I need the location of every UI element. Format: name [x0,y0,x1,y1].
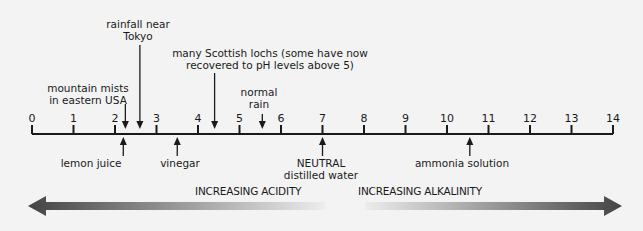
annotation-text: mountain mists [47,82,129,94]
annotation-text: lemon juice [61,157,122,169]
increasing-acidity-label: INCREASING ACIDITY [195,185,302,197]
annotation-text: Tokyo [122,30,152,42]
tick-label: 5 [236,112,243,125]
ph-scale-diagram: 01234567891011121314 mountain mistsin ea… [0,0,643,231]
tick-label: 2 [112,112,119,125]
annotation-ammonia: ammonia solution [415,137,509,169]
down-arrow-icon [136,121,143,129]
annotation-text: normal [241,86,278,98]
tick-label: 0 [29,112,36,125]
tick-label: 6 [278,112,285,125]
annotation-lemon-juice: lemon juice [61,137,127,169]
tick-label: 14 [606,112,620,125]
annotation-text: NEUTRAL [297,157,346,169]
down-arrow-icon [211,121,218,129]
tick-label: 8 [361,112,368,125]
tick-label: 7 [319,112,326,125]
increasing-alkalinity-label: INCREASING ALKALINITY [358,185,483,197]
annotation-text: rainfall near [106,18,170,30]
tick-label: 11 [482,112,496,125]
tick-label: 3 [153,112,160,125]
annotation-text: vinegar [160,157,200,169]
direction-arrow: INCREASING ACIDITY INCREASING ALKALINITY [28,185,622,216]
axis-ticks [32,125,613,134]
annotation-neutral: NEUTRALdistilled water [284,137,359,181]
tick-label: 10 [440,112,454,125]
tick-label: 13 [565,112,579,125]
tick-label: 12 [523,112,537,125]
acidity-arrow-icon [28,196,325,216]
alkalinity-arrow-icon [365,196,622,216]
annotation-text: rain [249,98,269,110]
annotation-vinegar: vinegar [160,137,200,169]
annotation-text: many Scottish lochs (some have now [172,47,368,59]
annotation-text: ammonia solution [415,157,509,169]
axis-tick-labels: 01234567891011121314 [29,112,621,125]
tick-label: 1 [70,112,77,125]
ph-scale-svg: 01234567891011121314 mountain mistsin ea… [0,0,643,231]
down-arrow-icon [122,121,129,129]
down-arrow-icon [259,121,266,129]
annotation-text: recovered to pH levels above 5) [186,59,354,71]
annotations-below: lemon juicevinegarNEUTRALdistilled water… [61,137,510,181]
annotation-normal-rain: normalrain [241,86,278,129]
annotation-text: distilled water [284,169,359,181]
tick-label: 9 [402,112,409,125]
tick-label: 4 [195,112,202,125]
annotation-text: in eastern USA [49,94,128,106]
